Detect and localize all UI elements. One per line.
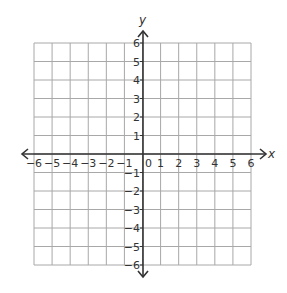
x-tick-label: 4 xyxy=(211,157,218,170)
x-tick-label: 1 xyxy=(157,157,164,170)
x-tick-label: −4 xyxy=(62,157,78,170)
axes xyxy=(22,31,266,277)
y-tick-label: −2 xyxy=(124,185,140,198)
y-tick-label: −1 xyxy=(124,167,140,180)
y-axis-label: y xyxy=(138,13,147,27)
x-tick-label: 6 xyxy=(248,157,255,170)
x-tick-label: 3 xyxy=(193,157,200,170)
y-tick-label: 4 xyxy=(133,74,140,87)
y-tick-label: −5 xyxy=(124,241,140,254)
y-tick-label: 3 xyxy=(133,93,140,106)
y-tick-label: 2 xyxy=(133,111,140,124)
y-tick-label: −3 xyxy=(124,204,140,217)
y-tick-label: −4 xyxy=(124,222,140,235)
x-axis-label: x xyxy=(267,147,276,161)
y-tick-label: 6 xyxy=(133,37,140,50)
x-tick-label: 0 xyxy=(145,157,152,170)
x-tick-label: 2 xyxy=(175,157,182,170)
y-tick-label: −6 xyxy=(124,259,140,272)
x-tick-label: −3 xyxy=(80,157,96,170)
x-tick-label: −5 xyxy=(44,157,60,170)
x-tick-label: −2 xyxy=(98,157,114,170)
coordinate-plane: −6−5−4−3−2−10123456654321−1−2−3−4−5−6 x … xyxy=(0,0,287,293)
y-tick-label: 1 xyxy=(133,130,140,143)
x-tick-label: 5 xyxy=(229,157,236,170)
y-tick-label: 5 xyxy=(133,56,140,69)
x-tick-label: −6 xyxy=(26,157,42,170)
